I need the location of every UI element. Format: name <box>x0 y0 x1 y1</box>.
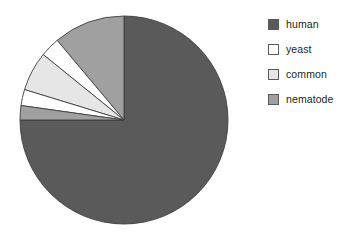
pie-plot-area <box>0 0 240 242</box>
pie-slice-group <box>20 16 228 224</box>
legend-label-nematode: nematode <box>286 94 334 105</box>
legend-label-yeast: yeast <box>286 44 312 55</box>
legend-swatch-common <box>268 69 279 80</box>
legend-item-human[interactable]: human <box>268 12 345 37</box>
pie-svg <box>0 0 240 242</box>
legend-item-common[interactable]: common <box>268 62 345 87</box>
legend-swatch-yeast <box>268 44 279 55</box>
legend-label-common: common <box>286 69 327 80</box>
legend-swatch-human <box>268 19 279 30</box>
legend-item-nematode[interactable]: nematode <box>268 87 345 112</box>
pie-chart-figure: human yeast common nematode <box>0 0 345 242</box>
legend-label-human: human <box>286 19 319 30</box>
legend-swatch-nematode <box>268 94 279 105</box>
chart-legend: human yeast common nematode <box>268 12 345 112</box>
legend-item-yeast[interactable]: yeast <box>268 37 345 62</box>
